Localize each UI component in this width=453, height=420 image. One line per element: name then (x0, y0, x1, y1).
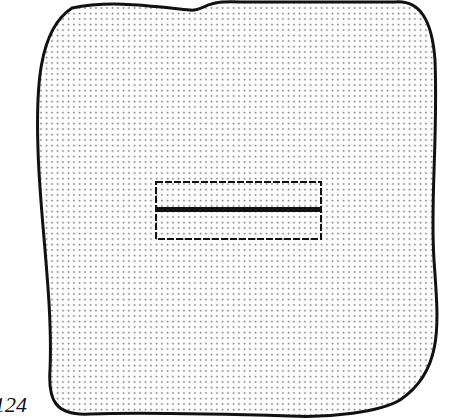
figure-diagram (0, 0, 453, 420)
figure-label: 124 (0, 392, 27, 418)
